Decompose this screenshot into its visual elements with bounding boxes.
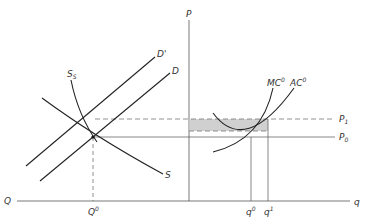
demand-shifted-curve <box>26 57 155 166</box>
price-p0-label: P0 <box>339 132 348 143</box>
short-run-supply-label: SS <box>67 69 77 80</box>
mc-label: MC0 <box>267 76 285 88</box>
price-p1-label: P1 <box>339 114 348 125</box>
axis-label-q: q <box>354 197 360 207</box>
q1-label: q1 <box>264 205 274 217</box>
supply-curve <box>42 98 163 174</box>
equilibrium-q-label: Q0 <box>88 205 99 217</box>
demand-curve <box>40 73 170 181</box>
demand-shifted-label: D' <box>157 49 166 59</box>
q0-label: q0 <box>246 205 256 217</box>
diagram-canvas: Q Q0 D' D S SS P q P1 P0 q0 q1 MC0 AC0 <box>0 0 366 219</box>
supply-label: S <box>165 170 171 180</box>
demand-label: D <box>172 66 179 76</box>
ac-label: AC0 <box>289 76 306 88</box>
axis-label-Q: Q <box>4 196 11 206</box>
axis-label-P: P <box>186 9 192 19</box>
equilibrium-point <box>91 135 94 138</box>
